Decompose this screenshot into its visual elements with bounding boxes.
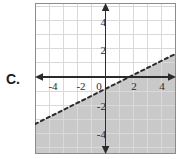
x-tick-label--4: -4 xyxy=(43,81,63,92)
graph-figure: C. xyxy=(0,0,185,159)
y-tick-label-4: 4 xyxy=(92,17,106,28)
coordinate-plane: -4 -2 0 2 4 4 2 -2 -4 xyxy=(35,3,176,154)
x-tick-label-2: 2 xyxy=(127,81,141,92)
y-tick-label--2: -2 xyxy=(87,101,106,112)
y-tick-label--4: -4 xyxy=(87,129,106,140)
choice-letter-label: C. xyxy=(6,69,32,89)
x-tick-label--2: -2 xyxy=(71,81,91,92)
origin-label: 0 xyxy=(93,81,105,92)
x-tick-label-4: 4 xyxy=(155,81,169,92)
y-tick-label-2: 2 xyxy=(92,45,106,56)
